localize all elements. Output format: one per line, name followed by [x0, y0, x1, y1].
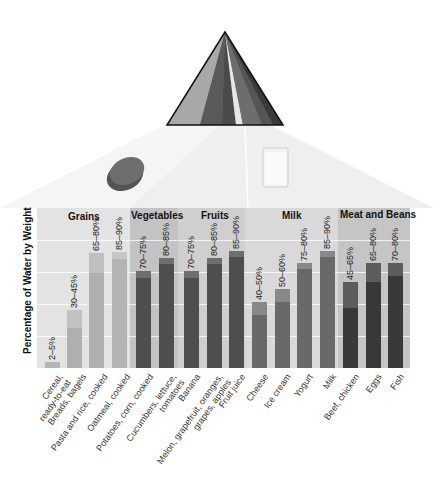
value-label: 85–90% [114, 217, 124, 250]
value-label: 85–90% [231, 216, 241, 249]
category-label: Yogurt [292, 372, 315, 399]
value-label: 85–90% [322, 216, 332, 249]
bar-ice-cream [275, 289, 290, 368]
bar-banana [184, 271, 199, 368]
value-label: 80–85% [209, 223, 219, 256]
group-label-meat-beans: Meat and Beans [340, 209, 416, 220]
group-label-fruits: Fruits [201, 210, 229, 221]
bar-eggs [366, 263, 381, 368]
value-label: 2–5% [47, 337, 57, 360]
y-axis-label: Percentage of Water by Weight [22, 207, 33, 354]
food-pyramid-icon [0, 0, 434, 210]
bar-milk [320, 251, 335, 368]
bar-cereal [45, 362, 60, 368]
value-label: 65–80% [368, 228, 378, 261]
milk-glass-icon [263, 148, 288, 187]
value-label: 30–45% [69, 275, 79, 308]
value-label: 75–80% [299, 228, 309, 261]
value-label: 50–60% [277, 254, 287, 287]
bar-fish [388, 263, 403, 368]
category-label: Milk [321, 372, 338, 391]
value-label: 70–75% [186, 236, 196, 269]
bar-melon-grapefruit [207, 258, 222, 368]
value-label: 40–50% [254, 267, 264, 300]
bar-potatoes-corn [136, 271, 151, 368]
value-label: 65–80% [91, 218, 101, 251]
category-label: Eggs [364, 372, 384, 395]
bar-pasta-rice [89, 253, 104, 368]
value-label: 70–75% [138, 236, 148, 269]
value-label: 70–80% [390, 228, 400, 261]
value-label: 80–85% [161, 223, 171, 256]
group-label-milk: Milk [282, 210, 301, 221]
bar-beef-chicken [343, 282, 358, 368]
bar-breads [67, 310, 82, 368]
value-label: 45–65% [345, 247, 355, 280]
bar-fruit-juice [229, 251, 244, 368]
category-label: Fish [388, 372, 406, 392]
group-label-vegetables: Vegetables [131, 210, 183, 221]
bar-cheese [252, 302, 267, 368]
bar-oatmeal [112, 252, 127, 368]
bar-cucumbers-lettuce [159, 258, 174, 368]
food-pyramid-water-chart: Grains Vegetables Fruits Milk Meat and B… [0, 0, 434, 483]
bar-yogurt [297, 263, 312, 368]
